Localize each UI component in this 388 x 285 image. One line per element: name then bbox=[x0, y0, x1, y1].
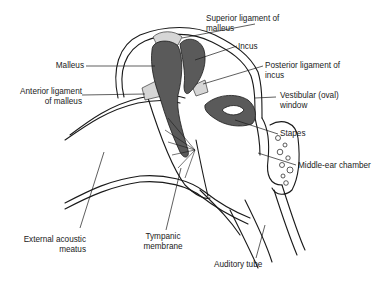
middle-ear-diagram: Superior ligament of malleus Incus Poste… bbox=[0, 0, 388, 285]
auditory-tube-4 bbox=[274, 190, 297, 255]
label-middle-ear-chamber: Middle-ear chamber bbox=[298, 161, 371, 171]
label-posterior-ligament-of-incus: Posterior ligament of incus bbox=[265, 61, 340, 80]
mastoid-air-cells bbox=[276, 136, 294, 186]
auditory-tube-1 bbox=[245, 200, 272, 262]
label-stapes: Stapes bbox=[280, 129, 306, 139]
label-external-acoustic-meatus: External acoustic meatus bbox=[20, 235, 86, 254]
label-malleus: Malleus bbox=[42, 61, 84, 71]
label-superior-ligament-of-malleus: Superior ligament of malleus bbox=[206, 14, 279, 33]
mastoid-wall-2 bbox=[255, 118, 260, 155]
mastoid-wall-1 bbox=[262, 118, 282, 185]
label-incus: Incus bbox=[238, 42, 258, 52]
label-auditory-tube: Auditory tube bbox=[214, 260, 262, 270]
label-tympanic-membrane: Tympanic membrane bbox=[138, 232, 188, 251]
auditory-tube-3 bbox=[282, 185, 305, 250]
middle-ear-floor bbox=[200, 190, 240, 235]
label-vestibular-oval-window: Vestibular (oval) window bbox=[280, 91, 339, 110]
label-anterior-ligament-of-malleus: Anterior ligament of malleus bbox=[6, 87, 82, 106]
stapes-shape bbox=[205, 95, 256, 126]
